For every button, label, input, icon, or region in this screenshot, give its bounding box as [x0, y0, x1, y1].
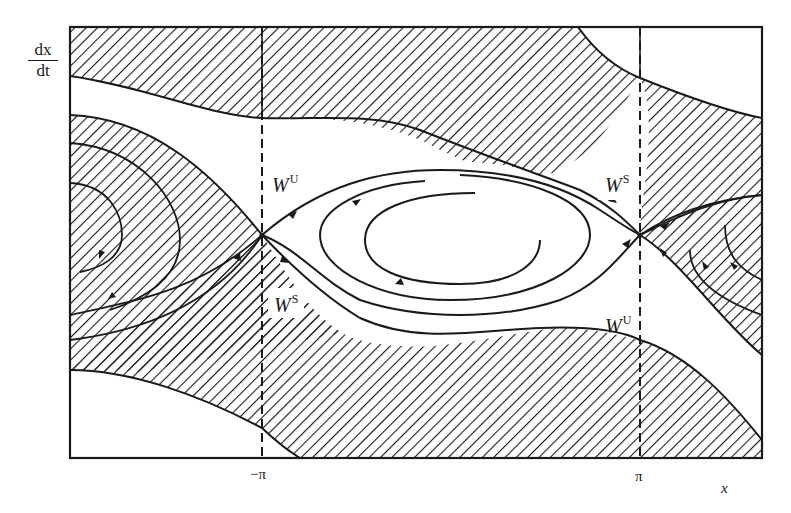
x-tick-pi: π: [635, 468, 643, 485]
x-axis-label: x: [721, 480, 728, 497]
y-axis-denominator: dt: [28, 61, 58, 80]
x-tick-neg-pi: −π: [250, 466, 266, 483]
manifold-label-ws-left: WS: [274, 292, 298, 317]
y-axis-label: dx dt: [28, 40, 58, 80]
manifold-label-ws-right: WS: [605, 172, 629, 197]
manifold-label-wu-right: WU: [605, 313, 631, 338]
y-axis-numerator: dx: [28, 40, 58, 61]
manifold-label-wu-left: WU: [272, 172, 298, 197]
phase-portrait-diagram: [0, 0, 791, 513]
saddle-point-left: [260, 233, 265, 238]
saddle-point-right: [638, 233, 643, 238]
